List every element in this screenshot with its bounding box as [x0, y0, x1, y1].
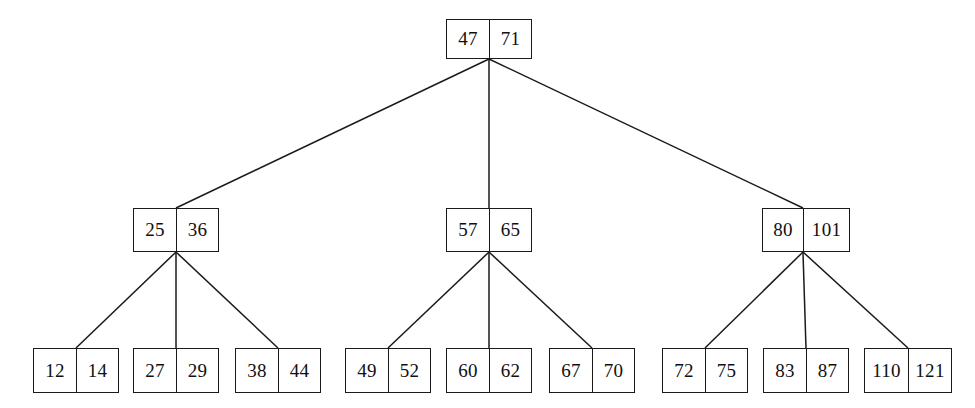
- internal-node-left: 2536: [133, 208, 219, 252]
- internal-node-center: 5765: [446, 208, 532, 252]
- key-cell: 12: [34, 349, 76, 392]
- leaf-node-60-62: 6062: [446, 348, 532, 393]
- key-cell: 60: [447, 349, 489, 392]
- key-cell: 83: [764, 349, 806, 392]
- edge-layer: [0, 0, 975, 408]
- key-cell: 29: [176, 349, 218, 392]
- key-cell: 44: [278, 349, 320, 392]
- key-cell: 65: [489, 209, 531, 251]
- leaf-node-83-87: 8387: [763, 348, 849, 393]
- key-cell: 121: [908, 349, 951, 392]
- root-node: 4771: [446, 19, 532, 59]
- key-cell: 47: [447, 20, 489, 58]
- edge-internal-right-to-leaf-9: [803, 252, 908, 348]
- key-cell: 110: [865, 349, 908, 392]
- leaf-node-72-75: 7275: [662, 348, 748, 393]
- key-cell: 52: [388, 349, 430, 392]
- key-cell: 70: [592, 349, 634, 392]
- key-cell: 80: [763, 209, 803, 251]
- leaf-node-12-14: 1214: [33, 348, 119, 393]
- key-cell: 38: [236, 349, 278, 392]
- key-cell: 49: [346, 349, 388, 392]
- key-cell: 101: [803, 209, 849, 251]
- edge-internal-right-to-leaf-7: [705, 252, 803, 348]
- btree-diagram: 4771253657658010112142729384449526062677…: [0, 0, 975, 408]
- internal-node-right: 80101: [762, 208, 850, 252]
- edge-root-to-internal-left: [176, 59, 489, 208]
- key-cell: 14: [76, 349, 118, 392]
- leaf-node-49-52: 4952: [345, 348, 431, 393]
- key-cell: 71: [489, 20, 531, 58]
- edge-internal-center-to-leaf-4: [388, 252, 489, 348]
- key-cell: 25: [134, 209, 176, 251]
- key-cell: 62: [489, 349, 531, 392]
- key-cell: 87: [806, 349, 848, 392]
- leaf-node-27-29: 2729: [133, 348, 219, 393]
- leaf-node-38-44: 3844: [235, 348, 321, 393]
- edge-root-to-internal-right: [489, 59, 803, 208]
- key-cell: 67: [550, 349, 592, 392]
- leaf-node-110-121: 110121: [864, 348, 952, 393]
- key-cell: 72: [663, 349, 705, 392]
- key-cell: 27: [134, 349, 176, 392]
- edge-internal-left-to-leaf-1: [76, 252, 176, 348]
- leaf-node-67-70: 6770: [549, 348, 635, 393]
- key-cell: 75: [705, 349, 747, 392]
- edge-internal-right-to-leaf-8: [803, 252, 806, 348]
- edge-internal-left-to-leaf-3: [176, 252, 278, 348]
- edge-internal-center-to-leaf-6: [489, 252, 592, 348]
- key-cell: 57: [447, 209, 489, 251]
- key-cell: 36: [176, 209, 218, 251]
